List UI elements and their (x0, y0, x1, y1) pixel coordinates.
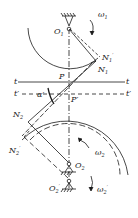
omega2-arrow-icon (80, 140, 89, 148)
label-o1: O1 (54, 27, 64, 37)
label-p: P (58, 72, 65, 81)
label-alpha-prime: α′ (37, 90, 44, 99)
label-t-right: t (126, 77, 130, 86)
o2prime-support-icon (61, 179, 76, 192)
label-omega2: ω2 (95, 148, 105, 158)
o1-n1prime-line (70, 29, 100, 57)
label-n2-prime: N2′ (8, 145, 21, 156)
label-o2-prime: O2′ (49, 183, 61, 194)
gear-meshing-diagram: O1 ω1 N1′ N1 P P′ t t t′ t′ α′ N2 N2′ O2… (0, 0, 138, 218)
label-n1-prime: N1′ (101, 52, 114, 63)
label-t-left: t (14, 77, 18, 86)
label-t-prime-right: t′ (126, 89, 131, 98)
label-n2: N2 (12, 110, 23, 120)
label-omega2-prime: ω2′ (97, 184, 109, 195)
label-omega1: ω1 (98, 10, 108, 20)
label-n1: N1 (97, 65, 108, 75)
n2-o2-line (28, 122, 69, 163)
label-o2: O2 (75, 161, 85, 171)
label-t-prime-left: t′ (14, 89, 19, 98)
o1-support-icon (61, 13, 76, 31)
n2prime-o2prime-line (24, 137, 68, 178)
o2-support-icon (61, 162, 76, 175)
label-p-prime: P′ (70, 95, 78, 104)
